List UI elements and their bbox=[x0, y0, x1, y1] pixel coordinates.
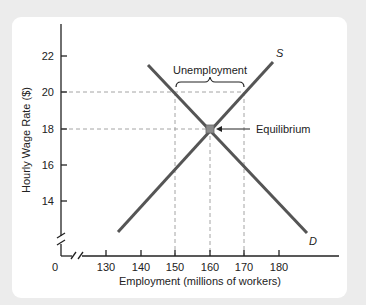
labor-market-chart: Unemployment Equilibrium S D 22 20 18 16… bbox=[0, 0, 366, 305]
equilibrium-label: Equilibrium bbox=[256, 123, 310, 135]
x-axis bbox=[61, 250, 339, 259]
y-tick-14: 14 bbox=[42, 195, 54, 207]
unemployment-label: Unemployment bbox=[173, 64, 247, 76]
supply-curve-label: S bbox=[276, 47, 284, 59]
unemployment-brace-icon bbox=[176, 77, 244, 87]
demand-curve-label: D bbox=[309, 235, 317, 247]
equilibrium-marker bbox=[206, 125, 214, 133]
x-tick-170: 170 bbox=[235, 261, 253, 273]
x-axis-title: Employment (millions of workers) bbox=[119, 275, 281, 287]
x-tick-160: 160 bbox=[201, 261, 219, 273]
x-tick-180: 180 bbox=[270, 261, 288, 273]
x-tick-130: 130 bbox=[97, 261, 115, 273]
x-tick-150: 150 bbox=[166, 261, 184, 273]
y-tick-22: 22 bbox=[42, 50, 54, 62]
y-axis bbox=[57, 24, 67, 256]
equilibrium-arrow-icon bbox=[216, 126, 250, 132]
y-axis-title: Hourly Wage Rate ($) bbox=[20, 87, 32, 193]
x-tick-0: 0 bbox=[52, 261, 58, 273]
supply-curve bbox=[118, 62, 273, 232]
demand-curve bbox=[148, 65, 307, 233]
y-tick-16: 16 bbox=[42, 159, 54, 171]
reference-lines bbox=[62, 92, 244, 256]
y-tick-20: 20 bbox=[42, 86, 54, 98]
y-tick-18: 18 bbox=[42, 123, 54, 135]
x-tick-140: 140 bbox=[132, 261, 150, 273]
